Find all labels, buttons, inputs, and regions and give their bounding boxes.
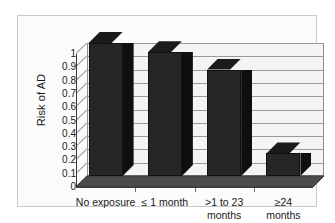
y-axis-tick-label: 0.7	[54, 89, 76, 99]
chart-frame: Risk of AD 00.10.20.30.40.50.60.70.80.91…	[17, 15, 317, 207]
bar	[207, 70, 241, 176]
bar	[89, 43, 123, 176]
y-axis-tick-label: 0.4	[54, 129, 76, 139]
x-axis-category-labels: No exposure≤ 1 month>1 to 23months≥24mon…	[76, 196, 328, 223]
y-axis-tick-label: 0.3	[54, 142, 76, 152]
bar-side-face	[241, 70, 252, 176]
x-axis-category-label-line: months	[248, 209, 319, 222]
bar-front-face	[266, 153, 300, 176]
x-axis-tick-mark	[195, 188, 196, 192]
y-axis-tick-label: 0.9	[54, 62, 76, 72]
y-axis-tick-label: 0.5	[54, 116, 76, 126]
y-axis-tick-label: 0	[54, 182, 76, 192]
x-axis-tick-mark	[254, 188, 255, 192]
bar	[148, 52, 182, 176]
y-axis-tick-label: 0.6	[54, 102, 76, 112]
bar-front-face	[207, 70, 241, 176]
plot-area	[76, 43, 324, 187]
y-axis-tick-label: 1	[54, 49, 76, 59]
x-axis-category-label-line: ≥24	[248, 196, 319, 209]
x-axis-tick-mark	[135, 188, 136, 192]
y-axis-tick-label: 0.8	[54, 76, 76, 86]
bar-front-face	[148, 52, 182, 176]
bar	[266, 153, 300, 176]
x-axis-category-label: ≥24months	[248, 196, 319, 221]
y-axis-tick-label: 0.1	[54, 169, 76, 179]
bar-side-face	[123, 43, 134, 176]
chart-figure: Risk of AD 00.10.20.30.40.50.60.70.80.91…	[0, 0, 335, 223]
bar-front-face	[89, 43, 123, 176]
y-axis-tick-label: 0.2	[54, 155, 76, 165]
y-axis-tick-labels: 00.10.20.30.40.50.60.70.80.91	[54, 43, 76, 186]
bar-side-face	[182, 52, 193, 176]
y-axis-title: Risk of AD	[35, 55, 47, 145]
bar-top-face	[89, 32, 123, 43]
